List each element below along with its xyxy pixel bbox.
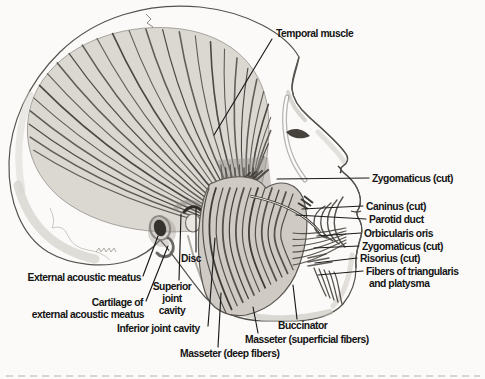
leader-line-external-acoustic-meatus (143, 236, 158, 276)
label-text-cartilage-of-external-acoustic-meatus: external acoustic meatus (32, 309, 145, 320)
leader-line-buccinator (293, 285, 297, 319)
eye-slit (286, 129, 310, 138)
label-text-fibers-of-triangularis-and-platysma: and platysma (369, 278, 430, 289)
label-text-external-acoustic-meatus: External acoustic meatus (28, 272, 142, 283)
label-text-superior-joint-cavity: cavity (159, 305, 186, 316)
label-text-masseter-deep-fibers: Masseter (deep fibers) (180, 348, 279, 359)
label-fibers-of-triangularis-and-platysma: Fibers of triangularisand platysma (318, 266, 459, 289)
figure-canvas: Temporal muscleZygomaticus (cut)Caninus … (0, 0, 485, 379)
label-buccinator: Buccinator (278, 285, 328, 331)
leader-line-zygomaticus-cut-upper (277, 178, 369, 179)
label-text-orbicularis-oris: Orbicularis oris (364, 228, 434, 239)
label-text-inferior-joint-cavity: Inferior joint cavity (117, 323, 200, 334)
label-cartilage-of-external-acoustic-meatus: Cartilage ofexternal acoustic meatus (32, 246, 168, 320)
label-text-superior-joint-cavity: joint (161, 293, 183, 304)
label-text-caninus-cut: Caninus (cut) (366, 201, 426, 212)
label-text-buccinator: Buccinator (278, 320, 328, 331)
label-text-masseter-superficial-fibers: Masseter (superficial fibers) (245, 334, 369, 345)
label-text-parotid-duct: Parotid duct (369, 214, 425, 225)
anatomy-figure: Temporal muscleZygomaticus (cut)Caninus … (0, 0, 485, 379)
label-text-fibers-of-triangularis-and-platysma: Fibers of triangularis (366, 266, 459, 277)
label-text-superior-joint-cavity: Superior (153, 281, 192, 292)
mouth-line (351, 211, 361, 212)
label-text-risorius-cut: Risorius (cut) (360, 253, 420, 264)
label-caninus-cut: Caninus (cut) (302, 201, 426, 212)
label-text-zygomaticus-cut-upper: Zygomaticus (cut) (372, 173, 453, 184)
label-text-zygomaticus-cut-lower: Zygomaticus (cut) (362, 241, 443, 252)
label-text-disc: Disc (181, 253, 202, 264)
label-text-cartilage-of-external-acoustic-meatus: Cartilage of (92, 297, 144, 308)
occiput-squiggle (96, 248, 116, 252)
label-text-temporal-muscle: Temporal muscle (276, 28, 354, 39)
